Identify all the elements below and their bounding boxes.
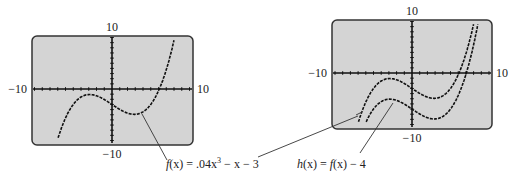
leader-line-f-right <box>258 116 358 157</box>
left-graph: 10 −10 −10 10 <box>8 20 209 161</box>
left-ymin-label: −10 <box>103 147 122 161</box>
left-xmax-label: 10 <box>197 82 209 96</box>
right-ymax-label: 10 <box>406 4 418 18</box>
right-ymin-label: −10 <box>403 131 422 145</box>
left-ymax-label: 10 <box>106 20 118 34</box>
left-xmin-label: −10 <box>8 82 27 96</box>
caption-h: h(x) = f(x) − 4 <box>297 157 366 171</box>
figure: 10 −10 −10 10 10 −10 −10 10 f(x) = .04x3… <box>0 0 517 182</box>
right-xmin-label: −10 <box>308 66 327 80</box>
caption-f: f(x) = .04x3 − x − 3 <box>166 156 259 171</box>
right-xmax-label: 10 <box>496 66 508 80</box>
